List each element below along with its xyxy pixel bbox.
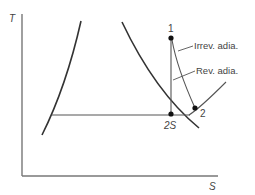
saturated-vapor-curve — [122, 22, 199, 128]
t-axis-label: T — [9, 14, 15, 24]
irreversible-adiabatic-curve — [172, 40, 195, 108]
state-point-1 — [168, 35, 173, 40]
s-axis-label: S — [209, 182, 216, 192]
irrev-leader-line — [178, 46, 193, 51]
rev-leader-line — [173, 71, 195, 80]
saturated-liquid-curve — [42, 21, 81, 135]
state-point-2 — [192, 105, 197, 110]
irreversible-adiabatic-label: Irrev. adia. — [194, 41, 238, 51]
state-point-2s — [168, 111, 173, 116]
point-2-label: 2 — [200, 109, 206, 119]
reversible-adiabatic-label: Rev. adia. — [196, 66, 238, 76]
point-1-label: 1 — [168, 24, 174, 34]
ts-diagram: T S 1 2 2S Irrev. adia. Rev. adia. — [0, 0, 255, 195]
diagram-canvas — [0, 0, 255, 195]
point-2s-label: 2S — [164, 121, 176, 131]
